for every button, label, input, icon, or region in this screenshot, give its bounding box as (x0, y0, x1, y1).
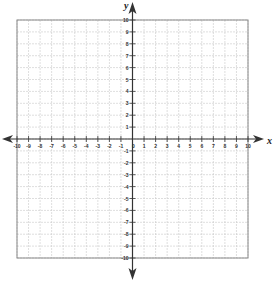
x-tick-label: 10 (245, 143, 251, 149)
y-tick-label: 6 (126, 65, 129, 71)
y-axis-label: y (123, 0, 129, 11)
y-tick-label: -1 (124, 148, 129, 154)
y-tick-label: -3 (124, 172, 129, 178)
x-tick-label: 8 (224, 143, 227, 149)
y-tick-label: -10 (121, 255, 128, 261)
y-tick-label: -4 (124, 184, 129, 190)
x-tick-label: -10 (13, 143, 20, 149)
x-axis-label: x (266, 135, 272, 146)
y-tick-label: -2 (124, 160, 129, 166)
y-tick-label: 8 (126, 41, 129, 47)
x-tick-label: -3 (96, 143, 101, 149)
y-tick-label: 7 (126, 53, 129, 59)
x-tick-label: -9 (26, 143, 31, 149)
x-tick-label: 3 (166, 143, 169, 149)
x-tick-label: -6 (61, 143, 66, 149)
y-tick-label: 9 (126, 29, 129, 35)
y-tick-label: -6 (124, 207, 129, 213)
x-tick-label: 4 (177, 143, 180, 149)
origin-label: 0 (132, 143, 135, 149)
coordinate-plane: -10-9-8-7-6-5-4-3-2-112345678910-10-9-8-… (0, 0, 278, 282)
x-tick-label: -8 (38, 143, 43, 149)
y-tick-label: 10 (123, 17, 129, 23)
x-tick-label: 1 (143, 143, 146, 149)
y-tick-label: -9 (124, 243, 129, 249)
y-tick-label: 4 (126, 88, 129, 94)
x-tick-label: 7 (212, 143, 215, 149)
x-tick-label: 2 (154, 143, 157, 149)
x-tick-label: -5 (73, 143, 78, 149)
x-tick-label: -2 (107, 143, 112, 149)
x-tick-label: -4 (84, 143, 89, 149)
y-tick-label: 1 (126, 124, 129, 130)
y-tick-label: 3 (126, 100, 129, 106)
y-tick-label: 5 (126, 77, 129, 83)
y-tick-label: -8 (124, 231, 129, 237)
y-tick-label: -5 (124, 196, 129, 202)
x-tick-label: 5 (189, 143, 192, 149)
x-tick-label: 9 (235, 143, 238, 149)
x-tick-label: 6 (200, 143, 203, 149)
y-tick-label: -7 (124, 219, 129, 225)
x-tick-label: -1 (119, 143, 124, 149)
y-tick-label: 2 (126, 112, 129, 118)
x-tick-label: -7 (49, 143, 54, 149)
